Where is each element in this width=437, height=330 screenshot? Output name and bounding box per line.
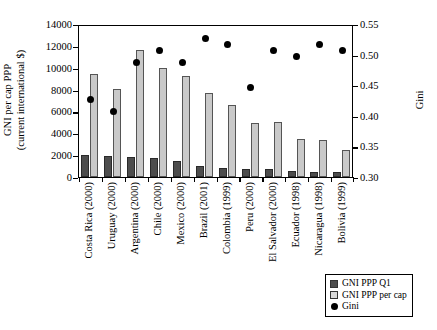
- x-category-label: Nicaragua (1998): [307, 182, 330, 268]
- bar-gni-ppp-per-cap: [159, 68, 167, 177]
- gini-marker: [133, 59, 140, 66]
- x-category-label: Ecuador (1998): [284, 182, 307, 268]
- gini-marker: [110, 108, 117, 115]
- chart-legend: GNI PPP Q1GNI PPP per capGini: [325, 274, 413, 317]
- x-category-label: El Salvador (2000): [261, 182, 284, 268]
- gini-marker: [293, 53, 300, 60]
- legend-swatch-q1-icon: [330, 280, 338, 288]
- y-tick-right-mark: [353, 56, 358, 57]
- y-tick-left-label: 8000: [28, 86, 72, 97]
- y-tick-right-label: 0.30: [360, 173, 394, 184]
- x-category-label: Peru (2000): [238, 182, 261, 268]
- bar-gni-ppp-per-cap: [228, 105, 236, 177]
- bar-gni-ppp-q1: [104, 156, 112, 177]
- x-category-label: Costa Rica (2000): [78, 182, 101, 268]
- gini-marker: [247, 84, 254, 91]
- y-tick-left-label: 2000: [28, 151, 72, 162]
- y-tick-right-label: 0.55: [360, 20, 394, 31]
- y-tick-left-label: 0: [28, 173, 72, 184]
- x-tick-mark: [353, 177, 354, 182]
- legend-item-label: Gini: [342, 301, 359, 313]
- bar-gni-ppp-q1: [81, 155, 89, 177]
- x-category-label-text: Colombia (1999): [222, 182, 233, 254]
- chart-figure: GNI per cap PPP (current international $…: [0, 0, 437, 330]
- x-category-label: Colombia (1999): [216, 182, 239, 268]
- plot-area: [78, 25, 353, 178]
- gini-marker: [179, 59, 186, 66]
- x-category-label: Bolivia (1999): [330, 182, 353, 268]
- bar-gni-ppp-per-cap: [251, 123, 259, 177]
- gini-marker: [270, 47, 277, 54]
- x-category-label-text: Nicaragua (1998): [313, 182, 324, 256]
- bar-gni-ppp-q1: [219, 168, 227, 177]
- y-tick-right-mark: [353, 117, 358, 118]
- x-category-label: Argentina (2000): [124, 182, 147, 268]
- legend-item-label: GNI PPP per cap: [342, 290, 407, 302]
- bar-gni-ppp-q1: [127, 157, 135, 177]
- bar-gni-ppp-per-cap: [136, 50, 144, 177]
- bar-gni-ppp-q1: [150, 158, 158, 177]
- bar-gni-ppp-per-cap: [205, 93, 213, 177]
- gini-marker: [156, 47, 163, 54]
- x-category-label: Mexico (2000): [170, 182, 193, 268]
- gini-marker: [339, 47, 346, 54]
- bar-gni-ppp-q1: [173, 161, 181, 177]
- y-tick-right-label: 0.40: [360, 112, 394, 123]
- x-category-label-text: El Salvador (2000): [268, 182, 279, 262]
- bar-gni-ppp-q1: [242, 169, 250, 177]
- x-category-label: Brazil (2001): [193, 182, 216, 268]
- y-axis-left-title: GNI per cap PPP (current international $…: [2, 20, 26, 180]
- y-tick-right-mark: [353, 147, 358, 148]
- y-tick-right-mark: [353, 86, 358, 87]
- x-category-label-text: Brazil (2001): [199, 182, 210, 238]
- bar-gni-ppp-per-cap: [113, 89, 121, 177]
- x-category-label-text: Chile (2000): [153, 182, 164, 235]
- legend-item: GNI PPP per cap: [330, 290, 407, 302]
- bar-gni-ppp-per-cap: [342, 150, 350, 177]
- y-tick-right-mark: [353, 25, 358, 26]
- gini-marker: [224, 41, 231, 48]
- y-axis-right-title: Gini: [408, 70, 432, 130]
- legend-swatch-percap-icon: [330, 291, 338, 299]
- bar-gni-ppp-per-cap: [182, 76, 190, 177]
- y-tick-right-label: 0.35: [360, 142, 394, 153]
- gini-marker: [87, 96, 94, 103]
- y-tick-left-label: 10000: [28, 64, 72, 75]
- legend-swatch-gini-icon: [331, 303, 338, 310]
- bar-gni-ppp-q1: [333, 172, 341, 177]
- x-category-label-text: Bolivia (1999): [336, 182, 347, 244]
- legend-item: GNI PPP Q1: [330, 278, 407, 290]
- y-tick-left-label: 4000: [28, 129, 72, 140]
- bar-gni-ppp-q1: [196, 166, 204, 177]
- bar-gni-ppp-q1: [310, 172, 318, 177]
- y-axis-left-title-line1: GNI per cap PPP: [2, 64, 13, 136]
- x-category-label-text: Costa Rica (2000): [84, 182, 95, 258]
- legend-item: Gini: [330, 301, 407, 313]
- y-tick-left-mark: [73, 178, 78, 179]
- bar-gni-ppp-per-cap: [90, 74, 98, 177]
- y-tick-left-label: 6000: [28, 107, 72, 118]
- y-tick-left-label: 14000: [28, 20, 72, 31]
- legend-item-label: GNI PPP Q1: [342, 278, 391, 290]
- gini-marker: [316, 41, 323, 48]
- x-category-label-text: Argentina (2000): [130, 182, 141, 254]
- gini-marker: [202, 35, 209, 42]
- x-category-label-text: Uruguay (2000): [107, 182, 118, 249]
- x-category-label-text: Ecuador (1998): [290, 182, 301, 248]
- bar-gni-ppp-per-cap: [274, 122, 282, 177]
- y-axis-left-title-line2: (current international $): [14, 50, 25, 150]
- y-tick-right-label: 0.50: [360, 51, 394, 62]
- x-category-label-text: Mexico (2000): [176, 182, 187, 245]
- y-axis-right-title-text: Gini: [414, 91, 425, 110]
- bar-gni-ppp-q1: [288, 171, 296, 177]
- bar-gni-ppp-per-cap: [297, 139, 305, 177]
- bar-gni-ppp-q1: [265, 169, 273, 177]
- y-tick-right-label: 0.45: [360, 81, 394, 92]
- bar-gni-ppp-per-cap: [319, 140, 327, 177]
- y-tick-left-label: 12000: [28, 42, 72, 53]
- x-category-label: Chile (2000): [147, 182, 170, 268]
- x-category-label: Uruguay (2000): [101, 182, 124, 268]
- x-category-label-text: Peru (2000): [245, 182, 256, 232]
